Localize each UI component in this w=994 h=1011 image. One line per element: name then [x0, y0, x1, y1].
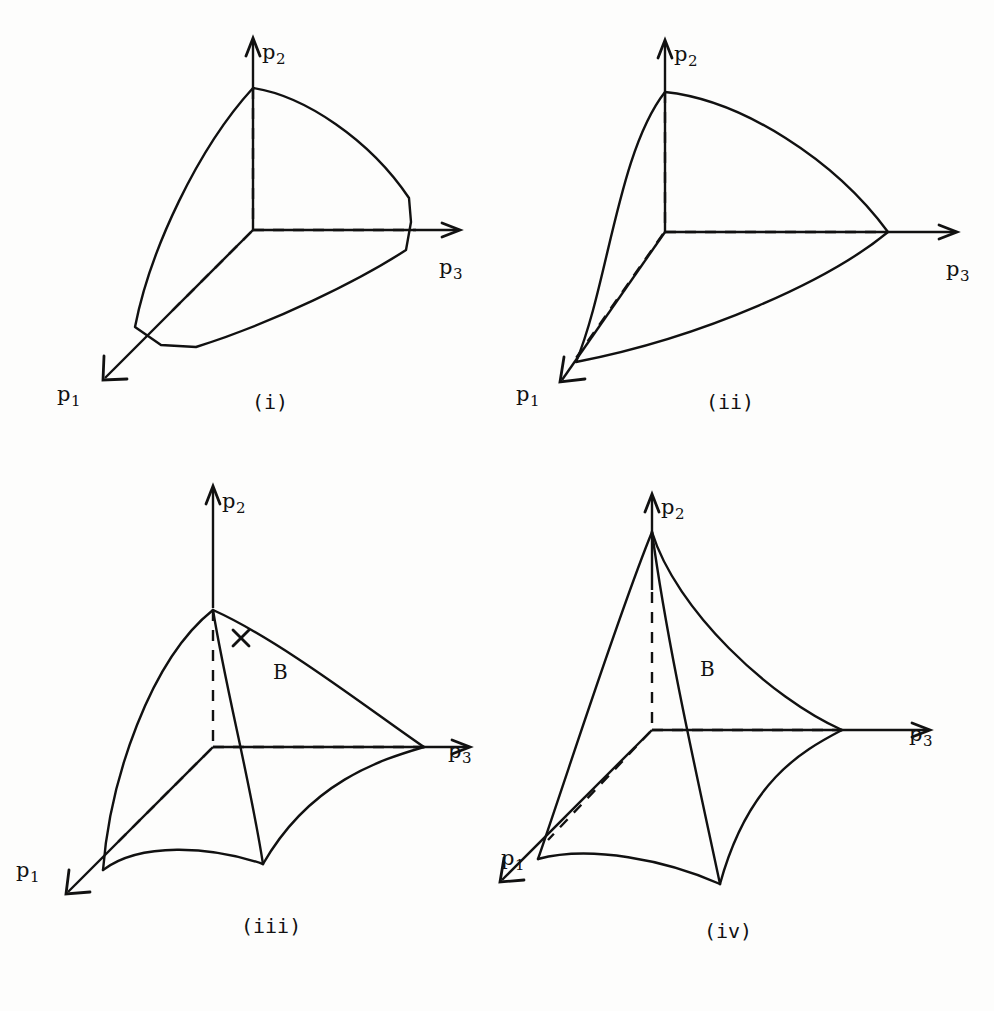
figure-sheet: p2 p3 p1 (i) p2 p3: [0, 0, 994, 1011]
body-outline-iii: [103, 610, 424, 870]
hidden-axis-lines: [113, 610, 424, 847]
hidden-axis-lines: [167, 88, 416, 316]
axis-p2: [206, 486, 220, 608]
axis-label-p3-panel-iv: p3: [909, 724, 933, 749]
panel-ii-graphic: [490, 0, 994, 450]
body-outline-ii: [576, 92, 888, 362]
hidden-axis-lines: [576, 92, 888, 358]
fold-curve-b-iv: [652, 532, 720, 884]
axis-label-p2-panel-ii: p2: [674, 44, 698, 69]
fold-curve-b-iii: [213, 610, 263, 864]
panel-caption-iv: (iv): [704, 921, 752, 941]
region-label-b-iv: B: [700, 659, 715, 679]
panel-caption-iii: (iii): [241, 916, 301, 936]
body-outline-iv: [538, 532, 842, 884]
hidden-axis-lines: [548, 592, 842, 840]
region-label-b-iii: B: [273, 662, 288, 682]
panel-caption-ii: (ii): [706, 392, 754, 412]
axis-label-p2-panel-iv: p2: [661, 497, 685, 522]
panel-i-graphic: [0, 0, 500, 450]
axis-label-p1-panel-ii: p1: [516, 384, 540, 409]
axis-label-p3-panel-ii: p3: [946, 259, 970, 284]
cross-mark-iii: [233, 630, 249, 646]
axis-label-p1-panel-iv: p1: [501, 848, 525, 873]
axis-label-p2-panel-iii: p2: [222, 491, 246, 516]
axis-label-p3-panel-iii: p3: [448, 741, 472, 766]
axis-label-p1-panel-iii: p1: [16, 860, 40, 885]
axis-label-p3-panel-i: p3: [439, 257, 463, 282]
axis-label-p2-panel-i: p2: [262, 42, 286, 67]
panel-caption-i: (i): [252, 392, 288, 412]
axis-label-p1-panel-i: p1: [57, 384, 81, 409]
